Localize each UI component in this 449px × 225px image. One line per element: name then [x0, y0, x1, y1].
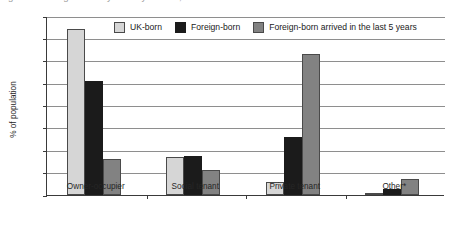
legend-label: Foreign-born arrived in the last 5 years: [269, 22, 417, 32]
y-axis-tick: [43, 196, 47, 197]
legend-item: Foreign-born: [175, 22, 240, 33]
bar: [67, 29, 85, 195]
figure-title: Figure: Housing tenure by country of bir…: [0, 0, 449, 2]
x-axis-category-label: Other*: [345, 182, 445, 191]
y-axis-tick: [43, 17, 47, 18]
bar: [302, 54, 320, 195]
gridline: [47, 106, 445, 107]
gridline: [47, 128, 445, 129]
legend-item: Foreign-born arrived in the last 5 years: [253, 22, 417, 33]
chart-legend: UK-bornForeign-bornForeign-born arrived …: [114, 20, 417, 34]
bar: [85, 81, 103, 195]
x-axis-category-label: Social tenant: [146, 182, 246, 191]
legend-label: Foreign-born: [191, 22, 240, 32]
y-axis-tick: [43, 84, 47, 85]
y-axis-title: % of population: [9, 45, 18, 175]
y-axis-tick: [43, 61, 47, 62]
x-axis-category-label: Private tenant: [245, 182, 345, 191]
plot-area: 01020304050607080: [46, 17, 444, 196]
legend-swatch-uk-born: [114, 22, 125, 33]
gridline: [47, 151, 445, 152]
legend-swatch-foreign-born-5y: [253, 22, 264, 33]
y-axis-tick: [43, 106, 47, 107]
legend-label: UK-born: [130, 22, 162, 32]
gridline: [47, 39, 445, 40]
chart-figure: Figure: Housing tenure by country of bir…: [0, 0, 449, 225]
y-axis-tick: [43, 128, 47, 129]
x-axis-tick: [147, 195, 148, 199]
legend-item: UK-born: [114, 22, 162, 33]
x-axis-tick: [346, 195, 347, 199]
gridline: [47, 84, 445, 85]
gridline: [47, 17, 445, 18]
x-axis-category-label: Owner-occupier: [46, 182, 146, 191]
y-axis-tick: [43, 173, 47, 174]
y-axis-tick: [43, 151, 47, 152]
bar: [365, 193, 383, 195]
y-axis-tick: [43, 39, 47, 40]
gridline: [47, 61, 445, 62]
x-axis-tick: [246, 195, 247, 199]
legend-swatch-foreign-born: [175, 22, 186, 33]
